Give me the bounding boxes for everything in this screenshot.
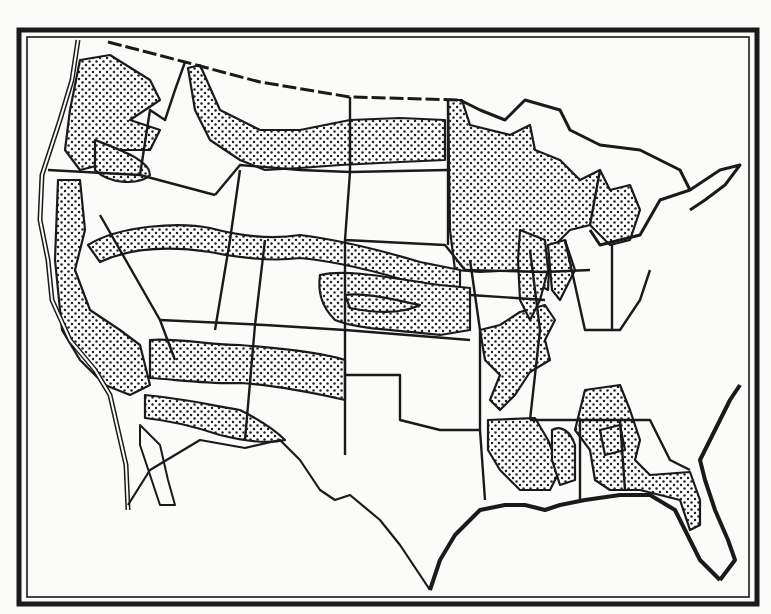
northern-plains-band (188, 65, 445, 170)
map-page (0, 0, 771, 614)
gulf-southeast-band (575, 385, 700, 530)
mexico-border (128, 440, 430, 590)
stipple-bands (55, 55, 700, 530)
atlantic-coast-line (700, 385, 740, 580)
mississippi-valley-band (480, 305, 555, 410)
canada-border (108, 42, 460, 100)
pacific-coast-band (55, 180, 150, 395)
southwest-belt-band (150, 340, 345, 400)
us-stipple-map (0, 0, 771, 614)
gulf-coast-line (430, 495, 720, 590)
